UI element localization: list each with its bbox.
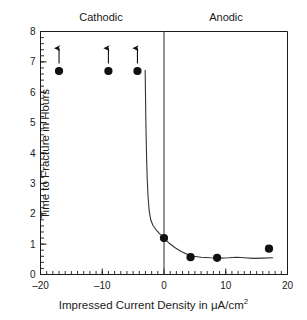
x-axis-title: Impressed Current Density in μA/cm2: [0, 297, 307, 311]
y-axis-tick-label: 1: [30, 239, 36, 250]
y-axis-tick-label: 2: [30, 208, 36, 219]
data-point-marker: [265, 245, 273, 253]
data-point-marker: [133, 67, 141, 75]
data-point-marker: [55, 67, 63, 75]
y-axis-tick-label: 6: [30, 87, 36, 98]
data-point-marker: [213, 254, 221, 262]
y-axis-tick-label: 5: [30, 117, 36, 128]
y-axis-tick-label: 3: [30, 178, 36, 189]
data-point-marker: [104, 67, 112, 75]
y-axis-title: Time to Fracture in Hours: [39, 24, 51, 284]
y-axis-tick-label: 4: [30, 148, 36, 159]
x-axis-tick-label: –10: [94, 280, 111, 291]
x-axis-title-text: Impressed Current Density in μA/cm: [59, 299, 244, 311]
data-point-marker: [186, 253, 194, 261]
y-axis-tick-label: 8: [30, 26, 36, 37]
x-axis-tick-label: 0: [161, 280, 167, 291]
chart-figure: Cathodic Anodic 012345678–20–1001020 Tim…: [0, 0, 307, 320]
x-axis-tick-label: 10: [220, 280, 232, 291]
x-axis-tick-label: 20: [282, 280, 294, 291]
y-axis-tick-label: 7: [30, 56, 36, 67]
y-axis-tick-label: 0: [30, 269, 36, 280]
data-point-marker: [160, 234, 168, 242]
x-axis-title-superscript: 2: [244, 297, 248, 306]
